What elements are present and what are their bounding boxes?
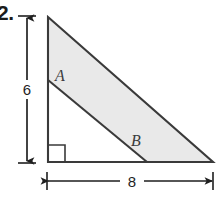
vertex-label-b: B bbox=[131, 133, 141, 149]
dimension-label-base: 8 bbox=[120, 174, 144, 189]
geometry-figure: 2. A B 6 8 bbox=[0, 0, 223, 202]
vertex-label-a: A bbox=[55, 68, 65, 84]
problem-number: 2. bbox=[0, 2, 14, 23]
figure-canvas bbox=[0, 0, 223, 202]
dimension-label-height: 6 bbox=[19, 80, 35, 99]
